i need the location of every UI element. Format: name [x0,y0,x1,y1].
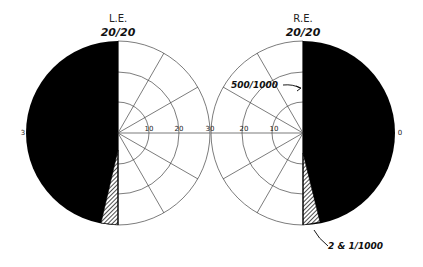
left-blind-hemifield [26,41,118,225]
right-eye-field: R.E. 20/20 10 20 0 [211,13,402,225]
right-tick-20: 20 [240,125,249,133]
arrow-head-icon [296,86,301,91]
annotation-arrow-lower [314,230,328,246]
left-eye-acuity: 20/20 [101,26,136,39]
left-eye-label: L.E. [109,13,127,24]
right-grid [211,41,303,225]
left-grid [118,41,210,225]
right-eye-label: R.E. [293,13,312,24]
left-edge-label: 3 [21,129,25,137]
left-tick-30: 30 [206,125,215,133]
visual-field-diagram: L.E. 20/20 10 20 30 3 R.E. 20/20 10 20 0… [0,0,423,267]
right-blind-hemifield [303,41,395,225]
right-tick-10: 10 [270,125,279,133]
left-tick-20: 20 [175,125,184,133]
annotation-2-1-1000: 2 & 1/1000 [328,241,383,251]
right-edge-label: 0 [398,129,402,137]
annotation-500-1000: 500/1000 [231,80,278,90]
left-eye-field: L.E. 20/20 10 20 30 3 [21,13,215,225]
left-tick-10: 10 [145,125,154,133]
right-eye-acuity: 20/20 [286,26,321,39]
